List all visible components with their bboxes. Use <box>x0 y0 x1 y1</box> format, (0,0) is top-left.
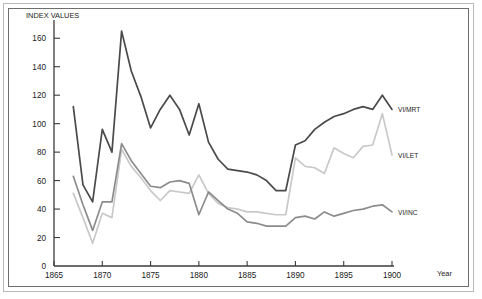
x-tick-label: 1890 <box>286 271 305 280</box>
series-line-vi-mrt <box>73 31 392 202</box>
y-tick-label: 120 <box>32 91 46 100</box>
series-line-vi-let <box>73 114 392 244</box>
x-tick-label: 1875 <box>141 271 160 280</box>
series-labels: VI/MRTVI/LETVI/INC <box>398 106 420 215</box>
chart-svg: 020406080100120140160 186518701875188018… <box>0 0 482 299</box>
x-tick-label: 1865 <box>45 271 64 280</box>
y-tick-label: 20 <box>37 234 47 243</box>
y-axis-title: INDEX VALUES <box>26 11 79 20</box>
x-tick-label: 1885 <box>238 271 257 280</box>
x-tick-label: 1895 <box>335 271 354 280</box>
x-tick-label: 1900 <box>383 271 402 280</box>
x-tick-label: 1880 <box>190 271 209 280</box>
y-tick-label: 140 <box>32 63 46 72</box>
x-axis: 18651870187518801885189018951900 <box>45 261 402 280</box>
series-label-vi-let: VI/LET <box>398 152 418 159</box>
y-tick-label: 80 <box>37 148 47 157</box>
chart-figure: 020406080100120140160 186518701875188018… <box>0 0 482 299</box>
x-tick-label: 1870 <box>93 271 112 280</box>
y-tick-label: 60 <box>37 177 47 186</box>
y-tick-label: 40 <box>37 205 47 214</box>
y-axis: 020406080100120140160 <box>32 20 60 271</box>
x-axis-title: Year <box>437 269 452 278</box>
series-label-vi-mrt: VI/MRT <box>398 106 420 113</box>
y-tick-label: 160 <box>32 34 46 43</box>
series-lines <box>73 31 392 243</box>
y-tick-label: 0 <box>41 262 46 271</box>
y-tick-label: 100 <box>32 120 46 129</box>
series-label-vi-inc: VI/INC <box>398 209 418 216</box>
